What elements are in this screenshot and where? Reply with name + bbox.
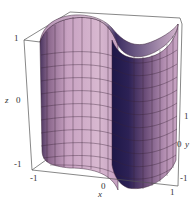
y-axis-label: y — [185, 140, 189, 149]
z-axis-label: z — [5, 96, 9, 105]
x-tick-1: 1 — [170, 188, 175, 197]
z-tick-0: 0 — [16, 96, 21, 105]
x-tick-neg1: -1 — [30, 174, 38, 183]
y-tick-neg1: -1 — [180, 174, 188, 183]
x-axis-label: x — [98, 190, 102, 199]
surface-plot — [0, 0, 192, 200]
z-tick-neg1: -1 — [14, 160, 22, 169]
z-tick-1: 1 — [14, 34, 19, 43]
y-tick-0: 0 — [177, 140, 182, 149]
y-tick-1: 1 — [184, 112, 189, 121]
